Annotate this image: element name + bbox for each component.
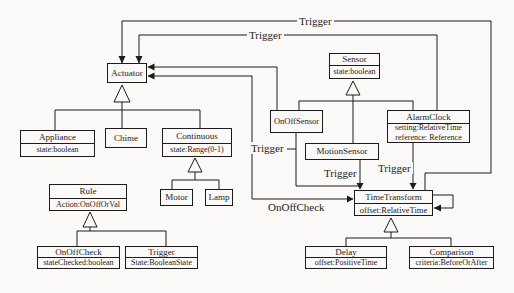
class-onoffsensor-name: OnOffSensor — [271, 111, 322, 132]
class-appliance: Appliance state:boolean — [20, 130, 95, 157]
class-delay-name: Delay — [306, 247, 386, 257]
class-actuator-name: Actuator — [108, 64, 146, 82]
class-sensor-name: Sensor — [330, 54, 379, 65]
generalization-timetransform-children — [346, 218, 451, 246]
class-onoffcheck: OnOffCheck stateChecked:boolean — [37, 246, 120, 269]
class-rule-attr: Action:OnOffOrVal — [50, 198, 126, 210]
class-rule: Rule Action:OnOffOrVal — [49, 184, 127, 211]
class-actuator: Actuator — [107, 63, 147, 83]
class-timetransform: TimeTransform offset:RelativeTime — [354, 190, 433, 216]
class-alarmclock: AlarmClock setting:RelativeTime referenc… — [387, 110, 470, 143]
edge-label-onoffcheck: OnOffCheck — [266, 201, 327, 213]
class-sensor: Sensor state:boolean — [329, 53, 380, 79]
class-alarmclock-name: AlarmClock — [388, 111, 469, 123]
class-motor-name: Motor — [161, 190, 192, 205]
class-appliance-name: Appliance — [21, 131, 94, 143]
class-rule-name: Rule — [50, 185, 126, 198]
edge-label-trigger-top: Trigger — [297, 15, 334, 27]
class-onoffcheck-name: OnOffCheck — [38, 247, 119, 257]
class-delay: Delay offset:PositiveTime — [305, 246, 387, 269]
edge-label-trigger-onoffsensor: Trigger — [249, 142, 286, 154]
class-sensor-attr: state:boolean — [330, 65, 379, 78]
class-timetransform-name: TimeTransform — [355, 191, 432, 203]
edge-trigger-timetransform-actuator — [119, 21, 492, 190]
class-comparison-attr: criteria:BeforeOrAfter — [410, 257, 493, 268]
class-continuous-name: Continuous — [163, 129, 231, 143]
class-trigger-name: Trigger — [126, 247, 197, 257]
class-alarmclock-attr-setting: setting:RelativeTime — [395, 123, 462, 133]
class-chime: Chime — [105, 128, 147, 148]
class-appliance-attr: state:boolean — [21, 143, 94, 156]
class-onoffsensor: OnOffSensor — [270, 110, 323, 133]
class-alarmclock-attr-reference: reference: Reference — [395, 133, 461, 142]
generalization-actuator-children — [55, 85, 200, 130]
generalization-rule-children — [77, 212, 166, 246]
uml-class-diagram: Actuator Sensor state:boolean Appliance … — [0, 0, 514, 293]
edge-label-trigger-motionsensor: Trigger — [322, 167, 359, 179]
class-trigger-attr: State:BooleanState — [126, 257, 197, 268]
class-lamp-name: Lamp — [206, 190, 232, 205]
edge-label-trigger-alarmclock: Trigger — [376, 162, 413, 174]
edge-onoffsensor-actuator — [148, 64, 278, 111]
class-trigger: Trigger State:BooleanState — [125, 246, 198, 269]
class-lamp: Lamp — [205, 189, 233, 206]
class-motionsensor: MotionSensor — [305, 143, 379, 160]
generalization-continuous-children — [172, 158, 219, 189]
class-delay-attr: offset:PositiveTime — [306, 257, 386, 268]
edge-timetransform-self-loop — [433, 195, 453, 212]
class-timetransform-attr: offset:RelativeTime — [355, 203, 432, 215]
class-chime-name: Chime — [106, 129, 146, 147]
class-alarmclock-attrs: setting:RelativeTime reference: Referenc… — [388, 123, 469, 142]
class-motor: Motor — [160, 189, 193, 206]
class-onoffcheck-attr: stateChecked:boolean — [38, 257, 119, 268]
class-comparison-name: Comparison — [410, 247, 493, 257]
class-comparison: Comparison criteria:BeforeOrAfter — [409, 246, 494, 269]
edge-trigger-alarmclock-actuator — [136, 35, 438, 110]
edge-label-trigger-actuator-alarmclock: Trigger — [247, 29, 284, 41]
class-continuous: Continuous state:Range(0-1) — [162, 128, 232, 157]
class-motionsensor-name: MotionSensor — [306, 144, 378, 159]
class-continuous-attr: state:Range(0-1) — [163, 143, 231, 156]
